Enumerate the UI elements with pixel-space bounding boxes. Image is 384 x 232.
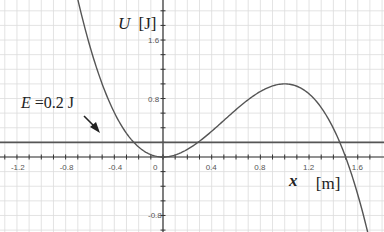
x-tick-label: -1.2	[11, 163, 25, 172]
x-tick-label: 0.4	[206, 163, 218, 172]
potential-curve	[78, 0, 375, 232]
x-axis-var: x	[288, 171, 298, 190]
potential-energy-chart: -1.2-0.8-0.400.40.81.21.61.60.8-0.8 U [J…	[0, 0, 384, 232]
x-axis-title: x [m]	[288, 171, 340, 193]
x-tick-label: -0.4	[108, 163, 122, 172]
x-tick-label: -0.8	[60, 163, 74, 172]
y-axis-unit: [J]	[139, 14, 157, 33]
x-tick-label: 1.6	[352, 163, 364, 172]
y-tick-label: 0.8	[148, 95, 160, 104]
chart-svg: -1.2-0.8-0.400.40.81.21.61.60.8-0.8 U [J…	[0, 0, 384, 232]
energy-annotation: E =0.2 J	[20, 94, 74, 111]
x-tick-label: 0	[153, 163, 158, 172]
y-axis-var: U	[118, 14, 132, 33]
annotation-arrow-icon	[84, 116, 100, 133]
energy-annotation-value: =0.2 J	[35, 94, 74, 111]
energy-annotation-var: E	[20, 94, 31, 111]
y-axis-title: U [J]	[118, 14, 156, 33]
x-axis-unit: [m]	[316, 174, 341, 193]
x-tick-label: 0.8	[254, 163, 266, 172]
potential-curve-path	[78, 0, 375, 232]
y-tick-label: 1.6	[148, 36, 160, 45]
y-tick-label: -0.8	[148, 211, 162, 220]
x-tick-label: 1.2	[303, 163, 315, 172]
